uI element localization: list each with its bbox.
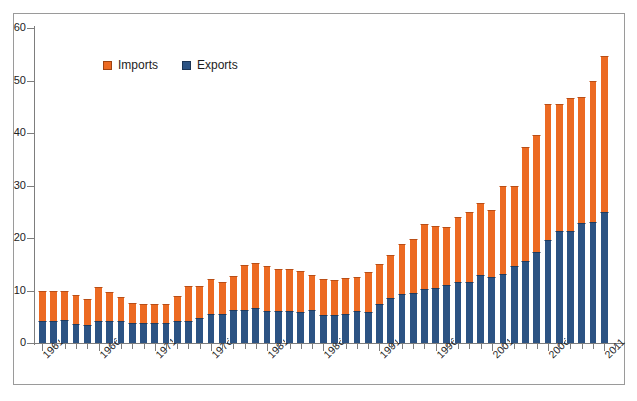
bar-segment-exports[interactable] <box>499 274 508 343</box>
bar-column[interactable] <box>218 282 227 343</box>
bar-column[interactable] <box>184 286 193 343</box>
bar-segment-exports[interactable] <box>577 223 586 343</box>
bar-segment-imports[interactable] <box>319 279 328 315</box>
bar-segment-exports[interactable] <box>139 323 148 343</box>
bar-segment-imports[interactable] <box>454 217 463 282</box>
bar-segment-exports[interactable] <box>420 289 429 343</box>
bar-column[interactable] <box>240 265 249 343</box>
bar-column[interactable] <box>308 275 317 343</box>
bar-segment-exports[interactable] <box>308 310 317 343</box>
bar-segment-exports[interactable] <box>274 311 283 343</box>
bar-segment-imports[interactable] <box>600 56 609 212</box>
bar-column[interactable] <box>229 276 238 343</box>
bar-segment-exports[interactable] <box>117 321 126 343</box>
bar-segment-imports[interactable] <box>308 275 317 311</box>
bar-column[interactable] <box>296 271 305 343</box>
bar-segment-exports[interactable] <box>341 314 350 343</box>
bar-segment-imports[interactable] <box>263 266 272 311</box>
bar-segment-imports[interactable] <box>49 291 58 321</box>
bar-segment-imports[interactable] <box>375 264 384 304</box>
bar-segment-imports[interactable] <box>117 297 126 322</box>
bar-segment-imports[interactable] <box>128 303 137 323</box>
bar-segment-imports[interactable] <box>431 226 440 287</box>
bar-segment-imports[interactable] <box>521 147 530 261</box>
bar-segment-exports[interactable] <box>454 282 463 343</box>
bar-segment-exports[interactable] <box>487 277 496 343</box>
bar-segment-imports[interactable] <box>341 278 350 313</box>
bar-column[interactable] <box>409 239 418 343</box>
bar-segment-imports[interactable] <box>251 263 260 308</box>
bar-segment-exports[interactable] <box>207 314 216 343</box>
bar-column[interactable] <box>364 272 373 343</box>
bar-segment-exports[interactable] <box>442 285 451 343</box>
bar-column[interactable] <box>600 56 609 343</box>
bar-segment-exports[interactable] <box>510 266 519 343</box>
bar-segment-exports[interactable] <box>60 320 69 343</box>
bar-column[interactable] <box>195 286 204 343</box>
bar-segment-imports[interactable] <box>476 203 485 275</box>
bar-segment-imports[interactable] <box>285 269 294 312</box>
bar-segment-exports[interactable] <box>128 323 137 343</box>
bar-column[interactable] <box>162 304 171 343</box>
bar-column[interactable] <box>454 217 463 343</box>
bar-segment-imports[interactable] <box>589 81 598 223</box>
bar-segment-imports[interactable] <box>296 271 305 312</box>
bar-segment-exports[interactable] <box>544 240 553 343</box>
bar-segment-imports[interactable] <box>229 276 238 310</box>
bar-segment-exports[interactable] <box>330 315 339 343</box>
bar-segment-exports[interactable] <box>353 311 362 343</box>
bar-column[interactable] <box>510 186 519 344</box>
bar-segment-exports[interactable] <box>319 315 328 343</box>
bar-column[interactable] <box>476 203 485 343</box>
bar-column[interactable] <box>431 226 440 343</box>
bar-segment-imports[interactable] <box>72 295 81 324</box>
bar-segment-imports[interactable] <box>150 304 159 323</box>
bar-column[interactable] <box>386 255 395 343</box>
bar-column[interactable] <box>465 212 474 343</box>
bar-segment-imports[interactable] <box>218 282 227 314</box>
bar-column[interactable] <box>128 303 137 343</box>
bar-column[interactable] <box>589 81 598 344</box>
bar-segment-imports[interactable] <box>409 239 418 293</box>
bar-segment-imports[interactable] <box>162 304 171 323</box>
bar-column[interactable] <box>117 297 126 343</box>
bar-segment-exports[interactable] <box>229 310 238 343</box>
bar-column[interactable] <box>274 269 283 343</box>
bar-segment-imports[interactable] <box>330 280 339 315</box>
bar-column[interactable] <box>375 264 384 343</box>
bar-column[interactable] <box>442 227 451 343</box>
bar-segment-imports[interactable] <box>555 104 564 231</box>
bar-segment-exports[interactable] <box>285 311 294 343</box>
bar-segment-imports[interactable] <box>184 286 193 321</box>
bar-segment-imports[interactable] <box>577 97 586 223</box>
bar-segment-exports[interactable] <box>49 321 58 343</box>
bar-segment-imports[interactable] <box>465 212 474 282</box>
bar-column[interactable] <box>420 224 429 343</box>
bar-segment-imports[interactable] <box>207 279 216 314</box>
bar-column[interactable] <box>263 266 272 343</box>
bar-segment-exports[interactable] <box>600 212 609 343</box>
bar-segment-exports[interactable] <box>94 321 103 343</box>
bar-column[interactable] <box>398 244 407 343</box>
bar-segment-exports[interactable] <box>83 325 92 343</box>
bar-column[interactable] <box>487 210 496 343</box>
bar-segment-imports[interactable] <box>139 304 148 323</box>
bar-column[interactable] <box>72 295 81 343</box>
bar-segment-imports[interactable] <box>105 292 114 322</box>
bar-column[interactable] <box>544 104 553 343</box>
bar-segment-exports[interactable] <box>173 321 182 343</box>
bar-segment-exports[interactable] <box>398 294 407 343</box>
bar-segment-imports[interactable] <box>532 135 541 252</box>
bar-segment-exports[interactable] <box>251 308 260 343</box>
bar-column[interactable] <box>207 279 216 343</box>
bar-segment-exports[interactable] <box>375 304 384 343</box>
bar-segment-exports[interactable] <box>521 261 530 343</box>
bar-segment-exports[interactable] <box>240 310 249 343</box>
bar-segment-exports[interactable] <box>38 321 47 343</box>
bar-column[interactable] <box>555 104 564 343</box>
bar-segment-exports[interactable] <box>431 288 440 343</box>
bar-segment-imports[interactable] <box>274 269 283 312</box>
bar-segment-exports[interactable] <box>476 275 485 343</box>
bar-segment-imports[interactable] <box>60 291 69 321</box>
bar-segment-exports[interactable] <box>162 323 171 343</box>
